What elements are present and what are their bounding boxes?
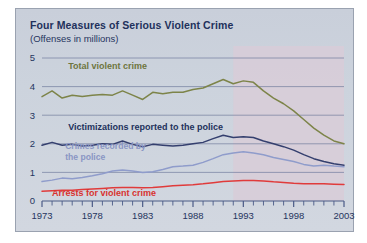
x-axis-tick-labels: 1973197819831988199319982003 xyxy=(31,210,354,221)
y-tick-label: 1 xyxy=(30,167,35,178)
y-tick-label: 3 xyxy=(30,110,35,121)
figure-root: Four Measures of Serious Violent Crime (… xyxy=(0,0,367,243)
x-tick-label: 1983 xyxy=(132,210,153,221)
x-tick-label: 2003 xyxy=(333,210,354,221)
plot-area: 012345 1973197819831988199319982003 Tota… xyxy=(16,9,355,233)
x-tick-label: 1978 xyxy=(82,210,103,221)
series-labels: Total violent crimeVictimizations report… xyxy=(52,61,223,198)
series-label-1: Victimizations reported to the police xyxy=(68,122,223,132)
y-axis-tick-labels: 012345 xyxy=(30,52,35,206)
y-tick-label: 2 xyxy=(30,138,35,149)
series-label-2: Crimes recorded by xyxy=(65,141,146,151)
series-label-0: Total violent crime xyxy=(68,61,147,71)
shaded-region xyxy=(233,46,344,201)
chart-panel: Four Measures of Serious Violent Crime (… xyxy=(15,8,354,232)
x-tick-label: 1998 xyxy=(283,210,304,221)
y-tick-label: 4 xyxy=(30,81,35,92)
series-label-3: Arrests for violent crime xyxy=(52,188,156,198)
shaded-region-rect xyxy=(233,46,344,201)
x-tick-label: 1973 xyxy=(31,210,52,221)
x-tick-label: 1988 xyxy=(182,210,203,221)
series-label-2-line2: the police xyxy=(65,152,105,162)
x-axis-minor-ticks xyxy=(42,201,344,207)
y-tick-label: 5 xyxy=(30,52,35,63)
y-tick-label: 0 xyxy=(30,195,35,206)
x-tick-label: 1993 xyxy=(233,210,254,221)
line-chart-svg: 012345 1973197819831988199319982003 Tota… xyxy=(16,9,355,233)
